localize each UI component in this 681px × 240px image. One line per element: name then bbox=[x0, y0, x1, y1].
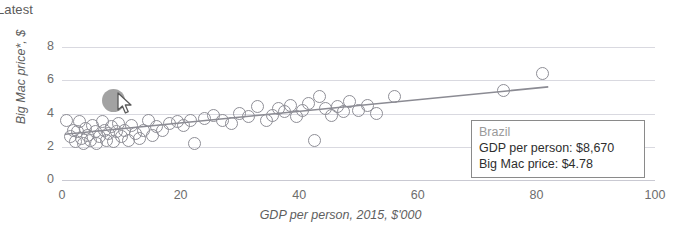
y-tick-label: 0 bbox=[30, 172, 54, 186]
y-tick-label: 2 bbox=[30, 139, 54, 153]
y-tick-label: 6 bbox=[30, 72, 54, 86]
y-axis-title: Big Mac price*, $ bbox=[14, 12, 28, 142]
scatter-point[interactable] bbox=[370, 107, 383, 120]
tooltip: Brazil GDP per person: $8,670 Big Mac pr… bbox=[471, 120, 645, 178]
tooltip-row-price: Big Mac price: $4.78 bbox=[479, 156, 637, 172]
tooltip-title: Brazil bbox=[479, 125, 637, 140]
x-tick-label: 40 bbox=[279, 188, 319, 202]
tooltip-row-gdp: GDP per person: $8,670 bbox=[479, 140, 637, 156]
x-tick-label: 80 bbox=[516, 188, 556, 202]
x-axis-title: GDP per person, 2015, $'000 bbox=[0, 208, 681, 222]
y-tick-label: 4 bbox=[30, 106, 54, 120]
scatter-point[interactable] bbox=[388, 90, 401, 103]
x-tick-label: 20 bbox=[161, 188, 201, 202]
y-tick-label: 8 bbox=[30, 39, 54, 53]
scatter-point[interactable] bbox=[497, 84, 510, 97]
scatter-point[interactable] bbox=[536, 67, 549, 80]
mouse-cursor-icon bbox=[117, 92, 135, 116]
x-tick-label: 100 bbox=[635, 188, 675, 202]
x-tick-label: 60 bbox=[398, 188, 438, 202]
scatter-point[interactable] bbox=[308, 134, 321, 147]
x-axis-line bbox=[62, 180, 655, 181]
x-tick-label: 0 bbox=[42, 188, 82, 202]
scatter-point[interactable] bbox=[184, 114, 197, 127]
chart-screenshot: Latest 02468 Big Mac price*, $ 020406080… bbox=[0, 0, 681, 240]
